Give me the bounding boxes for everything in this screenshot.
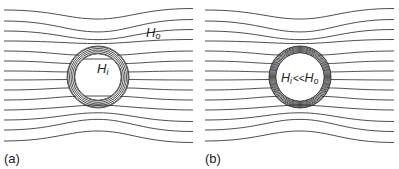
- outer-field-label-a: Ho: [146, 25, 160, 41]
- field-line: [4, 131, 193, 143]
- field-line: [205, 9, 394, 20]
- field-line: [205, 40, 394, 44]
- field-line: [205, 119, 394, 131]
- caption-b: (b): [205, 151, 221, 166]
- field-line: [4, 9, 193, 20]
- field-line: [205, 30, 394, 40]
- field-line: [205, 131, 394, 143]
- field-line: [205, 20, 394, 32]
- field-line: [4, 40, 193, 44]
- inner-field-label-b: Hi<<Ho: [281, 71, 319, 86]
- caption-a: (a): [4, 151, 20, 166]
- field-line: [4, 119, 193, 131]
- field-line: [205, 113, 394, 122]
- field-line: [4, 20, 193, 32]
- shielding-diagram: Ho Hi (a) Hi<<Ho (b): [0, 0, 399, 169]
- field-line: [4, 113, 193, 122]
- field-line: [4, 30, 193, 40]
